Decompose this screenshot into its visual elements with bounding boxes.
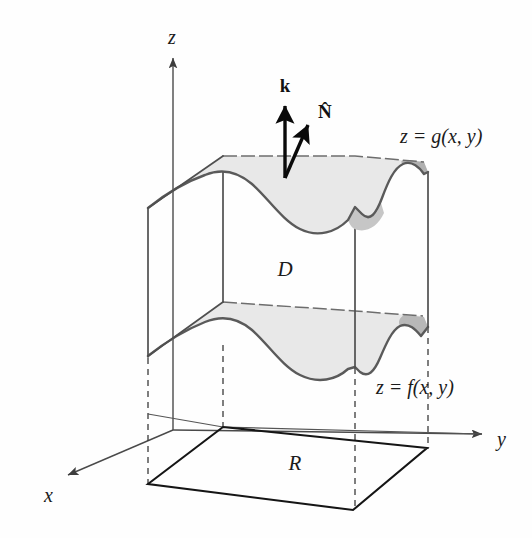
- figure-canvas: z y x R: [0, 0, 532, 538]
- upper-surface-label: z = g(x, y): [399, 125, 483, 148]
- x-axis: [68, 430, 173, 475]
- k-vector-label: k: [280, 75, 291, 96]
- region-R-label: R: [288, 451, 302, 475]
- axes-group: z y x: [43, 26, 506, 506]
- base-riser-left: [148, 414, 223, 427]
- diagram-svg: z y x R: [0, 0, 532, 538]
- x-axis-label: x: [43, 484, 53, 506]
- solid-region-D-label: D: [276, 257, 292, 281]
- lower-surface-label: z = f(x, y): [375, 376, 454, 399]
- y-axis-label: y: [495, 428, 506, 451]
- base-region-group: R: [148, 414, 482, 510]
- lower-surface-left-edge: [148, 302, 223, 356]
- lower-surface-group: [148, 302, 428, 380]
- region-R-parallelogram: [148, 427, 427, 510]
- z-axis-label: z: [167, 26, 176, 48]
- upper-surface-left-edge: [148, 156, 223, 208]
- normal-vector-label: N̂: [318, 101, 332, 122]
